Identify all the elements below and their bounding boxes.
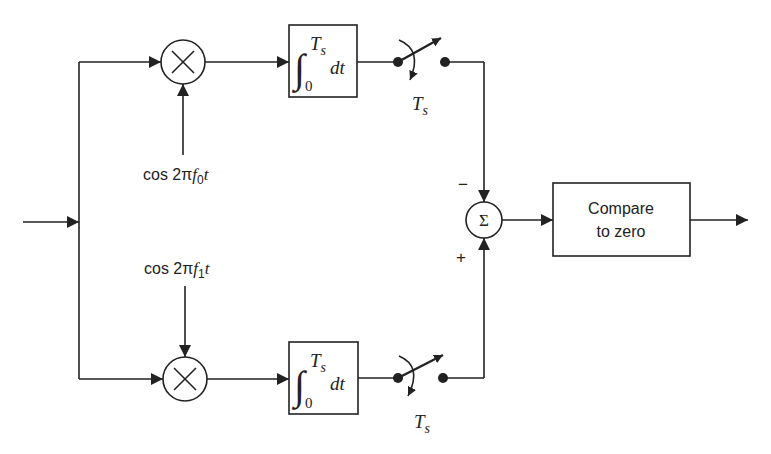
- upper-branch: cos 2πf0t ∫ Ts 0 dt Ts −: [79, 25, 484, 202]
- minus-sign: −: [458, 175, 468, 194]
- lower-integrator: ∫ Ts 0 dt: [289, 342, 358, 414]
- lower-multiplier: [163, 357, 207, 401]
- summer: Σ: [466, 202, 502, 238]
- integral-lower-limit: 0: [305, 395, 313, 411]
- upper-multiplier: [161, 40, 205, 84]
- lower-sampling-switch: Ts: [393, 355, 448, 436]
- integral-dt: dt: [330, 373, 346, 394]
- compare-label-line2: to zero: [597, 223, 646, 240]
- plus-sign: +: [456, 248, 466, 267]
- upper-integrator: ∫ Ts 0 dt: [289, 25, 357, 97]
- upper-reference-label: cos 2πf0t: [143, 165, 210, 187]
- lower-reference-label: cos 2πf1t: [144, 259, 211, 281]
- compare-to-zero-block: Compare to zero: [553, 183, 690, 256]
- integral-lower-limit: 0: [305, 78, 313, 94]
- compare-label-line1: Compare: [588, 200, 654, 217]
- integral-dt: dt: [330, 57, 346, 78]
- upper-sampling-switch: Ts: [393, 38, 450, 118]
- block-diagram: cos 2πf0t ∫ Ts 0 dt Ts − Σ Compare t: [0, 0, 771, 454]
- lower-branch: cos 2πf1t ∫ Ts 0 dt Ts +: [79, 238, 484, 436]
- sigma-icon: Σ: [479, 211, 489, 230]
- lower-switch-label: Ts: [414, 411, 431, 436]
- upper-switch-label: Ts: [412, 93, 429, 118]
